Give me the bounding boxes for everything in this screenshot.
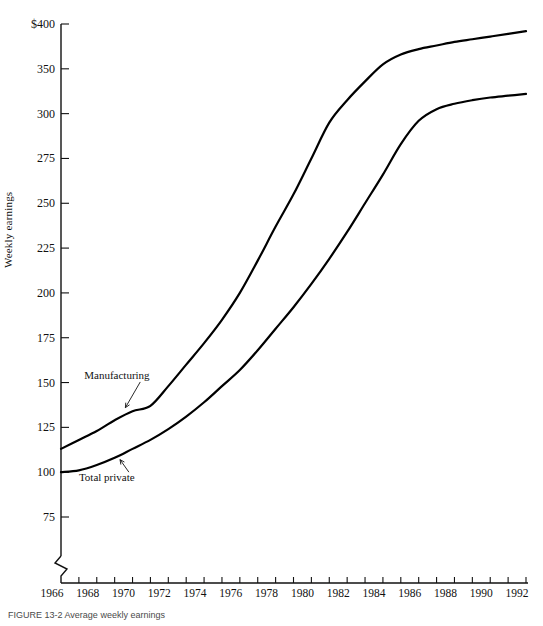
y-tick-label: 150 [37, 376, 55, 390]
y-axis: $40035030027525022520017515012510075 [31, 17, 69, 583]
x-tick-label: 1980 [291, 587, 314, 599]
annotation-label-total-private: Total private [79, 471, 135, 483]
line-chart: $40035030027525022520017515012510075 196… [0, 0, 543, 600]
x-tick-label: 1972 [148, 587, 171, 599]
series-annotations: ManufacturingTotal private [79, 369, 150, 483]
x-tick-label: 1986 [398, 587, 421, 599]
y-tick-label: 225 [37, 241, 55, 255]
series-line-manufacturing [61, 31, 526, 449]
x-axis: 1966196819701972197419761978198019821984… [41, 577, 529, 599]
x-tick-label: 1990 [470, 587, 493, 599]
y-tick-label: 275 [37, 151, 55, 165]
x-tick-label: 1992 [506, 587, 529, 599]
y-tick-label: 250 [37, 196, 55, 210]
x-tick-label: 1978 [255, 587, 278, 599]
series-line-total-private [61, 94, 526, 472]
x-tick-label: 1984 [362, 587, 385, 599]
figure-container: Weekly earnings $40035030027525022520017… [0, 0, 543, 626]
y-tick-label: 300 [37, 107, 55, 121]
x-tick-label: 1966 [41, 587, 64, 599]
y-tick-label: 100 [37, 465, 55, 479]
x-tick-label: 1970 [112, 587, 135, 599]
x-tick-label: 1982 [327, 587, 350, 599]
x-tick-label: 1976 [219, 587, 242, 599]
y-axis-title: Weekly earnings [2, 88, 14, 268]
figure-caption: FIGURE 13-2 Average weekly earnings [8, 610, 165, 620]
x-tick-label: 1988 [434, 587, 457, 599]
annotation-label-manufacturing: Manufacturing [84, 369, 150, 381]
y-tick-label: 175 [37, 331, 55, 345]
x-tick-label: 1974 [184, 587, 207, 599]
series-lines [61, 31, 526, 472]
annotation-leader [125, 382, 140, 408]
y-tick-label: $400 [31, 17, 55, 31]
y-tick-label: 125 [37, 420, 55, 434]
y-tick-label: 75 [43, 510, 55, 524]
y-tick-label: 350 [37, 62, 55, 76]
y-axis-break-icon [55, 556, 67, 583]
x-tick-label: 1968 [76, 587, 99, 599]
y-tick-label: 200 [37, 286, 55, 300]
